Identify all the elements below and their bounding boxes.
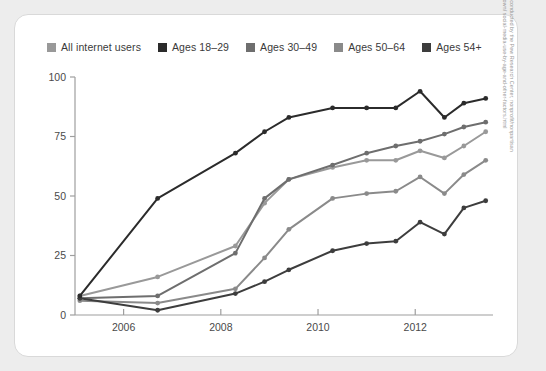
legend-item-label: Ages 54+ [436, 41, 481, 53]
series-data-point [483, 198, 488, 203]
series-line [80, 201, 486, 310]
series-data-point [483, 120, 488, 125]
series-data-point [233, 251, 238, 256]
series-data-point [286, 177, 291, 182]
legend-swatch-ages-54-plus [422, 43, 431, 52]
series-ages-18-29 [77, 89, 488, 298]
series-data-point [364, 151, 369, 156]
series-data-point [418, 89, 423, 94]
legend-item[interactable]: Ages 54+ [422, 41, 481, 53]
legend-swatch-ages-50-64 [334, 43, 343, 52]
series-data-point [364, 191, 369, 196]
y-axis-tick-label: 75 [54, 130, 66, 142]
series-data-point [442, 156, 447, 161]
series-data-point [155, 308, 160, 313]
series-data-point [483, 129, 488, 134]
series-data-point [393, 144, 398, 149]
legend-swatch-ages-18-29 [158, 43, 167, 52]
series-data-point [330, 106, 335, 111]
series-ages-50-64 [77, 158, 488, 306]
series-data-point [233, 151, 238, 156]
series-data-point [393, 239, 398, 244]
series-data-point [442, 191, 447, 196]
series-data-point [483, 96, 488, 101]
legend-item[interactable]: Ages 18–29 [158, 41, 229, 53]
series-data-point [262, 129, 267, 134]
y-axis-tick-label: 25 [54, 249, 66, 261]
series-data-point [155, 294, 160, 299]
legend-item-label: Ages 18–29 [172, 41, 229, 53]
series-data-point [418, 148, 423, 153]
series-data-point [442, 232, 447, 237]
series-line [80, 132, 486, 296]
series-data-point [442, 115, 447, 120]
series-data-point [364, 158, 369, 163]
series-data-point [461, 172, 466, 177]
series-data-point [262, 279, 267, 284]
series-data-point [155, 301, 160, 306]
series-data-point [286, 115, 291, 120]
series-data-point [418, 220, 423, 225]
series-data-point [286, 227, 291, 232]
source-note: Based on surveys conducted by the Pew Re… [501, 0, 515, 165]
series-data-point [286, 267, 291, 272]
series-data-point [461, 101, 466, 106]
x-axis-tick-label: 2010 [306, 321, 330, 333]
series-data-point [393, 158, 398, 163]
series-data-point [233, 286, 238, 291]
x-axis-tick-label: 2008 [209, 321, 233, 333]
series-data-point [461, 206, 466, 211]
legend-item[interactable]: All internet users [47, 41, 141, 53]
y-axis-tick-label: 50 [54, 190, 66, 202]
series-data-point [442, 132, 447, 137]
series-data-point [330, 248, 335, 253]
series-data-point [155, 275, 160, 280]
series-data-point [418, 175, 423, 180]
series-data-point [418, 139, 423, 144]
legend-item[interactable]: Ages 30–49 [246, 41, 317, 53]
legend-swatch-ages-30-49 [246, 43, 255, 52]
series-data-point [483, 158, 488, 163]
series-data-point [461, 144, 466, 149]
series-data-point [262, 196, 267, 201]
x-axis-tick-label: 2012 [404, 321, 428, 333]
legend-item-label: All internet users [61, 41, 141, 53]
legend-item-label: Ages 30–49 [260, 41, 317, 53]
series-data-point [233, 244, 238, 249]
series-data-point [364, 241, 369, 246]
chart-card: All internet usersAges 18–29Ages 30–49Ag… [14, 14, 518, 357]
legend-swatch-all-internet-users [47, 43, 56, 52]
series-data-point [330, 196, 335, 201]
chart-legend: All internet usersAges 18–29Ages 30–49Ag… [47, 37, 497, 57]
series-data-point [262, 255, 267, 260]
series-data-point [233, 291, 238, 296]
series-data-point [393, 189, 398, 194]
legend-item-label: Ages 50–64 [348, 41, 405, 53]
series-line [80, 91, 486, 296]
series-data-point [461, 125, 466, 130]
series-data-point [77, 294, 82, 299]
series-ages-54 [77, 198, 488, 312]
legend-item[interactable]: Ages 50–64 [334, 41, 405, 53]
series-data-point [393, 106, 398, 111]
y-axis-tick-label: 100 [48, 71, 66, 83]
chart-screenshot: All internet usersAges 18–29Ages 30–49Ag… [0, 0, 546, 371]
series-data-point [364, 106, 369, 111]
line-chart-svg: 02550751002006200820102012 [33, 67, 503, 357]
series-data-point [155, 196, 160, 201]
x-axis-tick-label: 2006 [112, 321, 136, 333]
y-axis-tick-label: 0 [60, 309, 66, 321]
series-data-point [330, 163, 335, 168]
chart-plot-area: 02550751002006200820102012 [33, 67, 503, 357]
